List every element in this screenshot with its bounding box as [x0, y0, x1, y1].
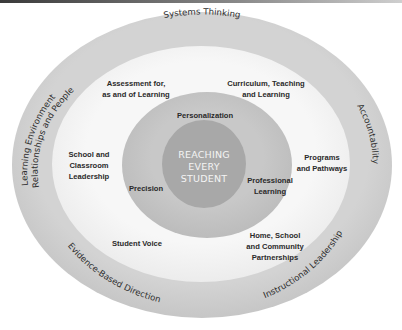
svg-text:Classroom: Classroom — [69, 161, 108, 170]
svg-text:STUDENT: STUDENT — [181, 173, 227, 184]
svg-text:Learning: Learning — [254, 187, 286, 196]
svg-text:EVERY: EVERY — [188, 161, 219, 172]
svg-text:Home, School: Home, School — [250, 231, 301, 240]
svg-text:Curriculum, Teaching: Curriculum, Teaching — [227, 79, 305, 88]
svg-text:Programs: Programs — [304, 153, 339, 162]
svg-text:and Learning: and Learning — [242, 90, 290, 99]
svg-text:Leadership: Leadership — [69, 172, 110, 181]
label-school-classroom-leadership: School and Classroom Leadership — [69, 150, 110, 181]
svg-text:REACHING: REACHING — [178, 149, 230, 160]
svg-text:Professional: Professional — [247, 176, 293, 185]
svg-text:School and: School and — [69, 150, 110, 159]
svg-text:Assessment for,: Assessment for, — [107, 79, 166, 88]
svg-text:as and of Learning: as and of Learning — [102, 90, 170, 99]
label-home-school-community: Home, School and Community Partnerships — [246, 231, 304, 262]
label-precision: Precision — [129, 184, 164, 193]
label-student-voice: Student Voice — [112, 239, 162, 248]
label-personalization: Personalization — [177, 111, 233, 120]
framework-diagram: REACHING EVERY STUDENT Personalization P… — [0, 0, 402, 330]
svg-text:Partnerships: Partnerships — [252, 253, 298, 262]
svg-text:and Pathways: and Pathways — [297, 164, 348, 173]
svg-text:and Community: and Community — [246, 242, 304, 251]
